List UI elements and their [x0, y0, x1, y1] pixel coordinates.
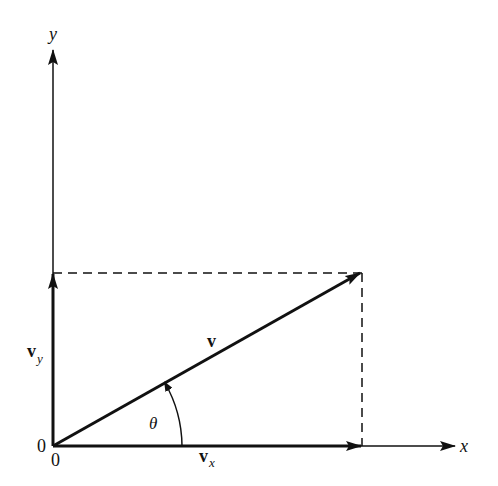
y-axis-label: y: [47, 24, 57, 44]
vy-subscript: y: [35, 351, 43, 366]
main-vector-v: [53, 273, 360, 446]
origin-label-vertical: 0: [37, 436, 46, 456]
vx-subscript: x: [208, 455, 215, 470]
vx-label: v: [199, 446, 208, 466]
vy-label: v: [27, 341, 36, 361]
vector-v-label: v: [207, 331, 216, 351]
angle-theta-label: θ: [149, 414, 157, 433]
angle-arc: [165, 383, 182, 446]
vector-diagram: y x 0 0 v v y v x θ: [0, 0, 498, 486]
x-axis-label: x: [459, 436, 468, 456]
origin-label-horizontal: 0: [51, 450, 60, 470]
